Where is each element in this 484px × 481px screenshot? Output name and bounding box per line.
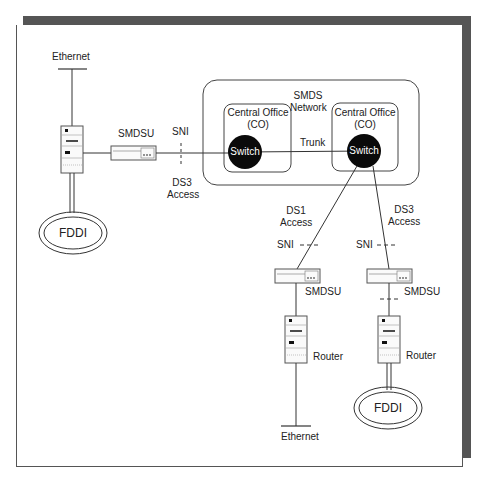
label-ds1-access: DS1 Access [280, 205, 312, 229]
label-sni-right: SNI [356, 239, 373, 251]
label-ethernet-left: Ethernet [52, 51, 90, 63]
router-icon-right [378, 316, 400, 363]
label-ds3-access-left: DS3 Access [167, 177, 197, 201]
router-icon-middle [285, 316, 307, 363]
label-trunk: Trunk [300, 137, 325, 149]
label-router-right: Router [406, 350, 436, 362]
smdsu-icon-middle [275, 269, 320, 283]
label-smdsu-middle: SMDSU [305, 286, 341, 298]
ds3-access-line [373, 166, 389, 269]
label-ds3-access-right: DS3 Access [388, 204, 420, 228]
label-switch-right: Switch [345, 145, 383, 157]
label-sni-middle: SNI [277, 239, 294, 251]
network-diagram-graphics [0, 0, 484, 481]
label-central-office-left: Central Office (CO) [226, 107, 290, 131]
label-sni-left: SNI [172, 126, 189, 138]
router-icon-left [61, 126, 83, 173]
label-switch-left: Switch [226, 146, 264, 158]
label-central-office-right: Central Office (CO) [333, 107, 397, 131]
label-fddi-left: FDDI [57, 226, 89, 240]
label-smdsu-right: SMDSU [404, 286, 440, 298]
label-router-middle: Router [313, 351, 343, 363]
smdsu-icon-right [367, 269, 412, 283]
label-fddi-right: FDDI [372, 401, 404, 415]
smdsu-icon-left [111, 146, 156, 160]
label-ethernet-middle: Ethernet [281, 431, 319, 443]
label-smds-network: SMDS Network [290, 90, 326, 114]
label-smdsu-left: SMDSU [118, 128, 154, 140]
